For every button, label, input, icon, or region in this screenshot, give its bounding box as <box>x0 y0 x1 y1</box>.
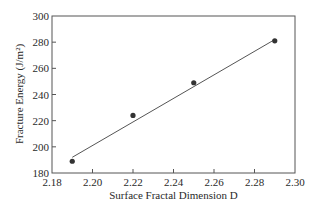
data-points <box>70 38 278 164</box>
data-point <box>191 80 196 85</box>
x-axis-ticks: 2.182.202.222.242.262.282.30 <box>42 169 305 188</box>
x-tick-label: 2.26 <box>204 176 224 188</box>
chart: 2.182.202.222.242.262.282.30 18020022024… <box>0 0 319 211</box>
x-axis-label: Surface Fractal Dimension D <box>109 189 238 201</box>
y-tick-label: 260 <box>33 62 50 74</box>
regression-line <box>72 40 275 158</box>
x-tick-label: 2.22 <box>123 176 142 188</box>
y-tick-label: 220 <box>33 115 50 127</box>
x-tick-label: 2.24 <box>164 176 184 188</box>
y-axis-label: Fracture Energy (J/m²) <box>13 44 26 145</box>
y-tick-label: 300 <box>33 10 50 22</box>
data-point <box>70 159 75 164</box>
y-tick-label: 240 <box>33 89 50 101</box>
data-point <box>272 38 277 43</box>
data-point <box>130 113 135 118</box>
fit-line <box>72 40 275 158</box>
x-tick-label: 2.30 <box>285 176 305 188</box>
y-tick-label: 280 <box>33 36 50 48</box>
x-tick-label: 2.28 <box>245 176 265 188</box>
y-tick-label: 180 <box>33 167 50 179</box>
plot-frame <box>52 16 295 173</box>
x-tick-label: 2.20 <box>83 176 103 188</box>
y-tick-label: 200 <box>33 141 50 153</box>
